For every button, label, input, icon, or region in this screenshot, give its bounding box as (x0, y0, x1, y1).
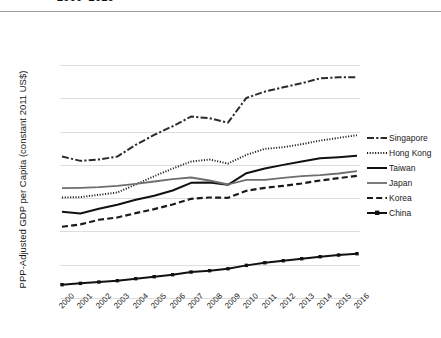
legend-item-label: Taiwan (388, 163, 415, 173)
legend-item-label: Japan (388, 178, 412, 188)
legend-swatch-icon (366, 192, 388, 204)
legend-item-label: Korea (388, 193, 412, 203)
y-axis-title: PPP-Adjusted GDP per Capita (constant 20… (17, 55, 28, 305)
legend-item-taiwan[interactable]: Taiwan (366, 160, 441, 175)
series-container (60, 20, 360, 310)
legend-swatch-icon (366, 147, 388, 159)
series-marker-china (355, 252, 358, 255)
legend-swatch-icon (366, 177, 388, 189)
legend-swatch-icon (366, 207, 388, 219)
plot-area: 010,00020,00030,00040,00050,00060,00070,… (60, 20, 360, 310)
series-marker-china (282, 259, 285, 262)
legend-item-japan[interactable]: Japan (366, 175, 441, 190)
legend-item-label: Singapore (388, 133, 428, 143)
series-marker-china (97, 280, 100, 283)
legend-item-hong-kong[interactable]: Hong Kong (366, 145, 441, 160)
series-line-japan (62, 171, 357, 188)
legend-item-korea[interactable]: Korea (366, 190, 441, 205)
legend-swatch-icon (366, 132, 388, 144)
series-marker-china (171, 273, 174, 276)
series-marker-china (263, 261, 266, 264)
series-marker-china (337, 253, 340, 256)
series-line-taiwan (62, 156, 357, 214)
legend-item-label: China (388, 208, 411, 218)
title-divider (0, 11, 441, 12)
series-marker-china (226, 267, 229, 270)
series-marker-china (208, 269, 211, 272)
chart-title: 2000–2016 (57, 0, 114, 3)
series-marker-china (152, 275, 155, 278)
series-marker-china (189, 270, 192, 273)
series-marker-china (318, 255, 321, 258)
series-marker-china (79, 282, 82, 285)
series-marker-china (245, 264, 248, 267)
chart-legend: SingaporeHong KongTaiwanJapanKoreaChina (366, 130, 441, 220)
legend-item-china[interactable]: China (366, 205, 441, 220)
series-marker-china (116, 279, 119, 282)
legend-item-label: Hong Kong (388, 148, 432, 158)
legend-swatch-icon (366, 162, 388, 174)
series-line-hong-kong (62, 135, 357, 197)
series-marker-china (60, 283, 63, 286)
legend-item-singapore[interactable]: Singapore (366, 130, 441, 145)
series-marker-china (300, 257, 303, 260)
series-marker-china (134, 277, 137, 280)
series-line-singapore (62, 77, 357, 161)
